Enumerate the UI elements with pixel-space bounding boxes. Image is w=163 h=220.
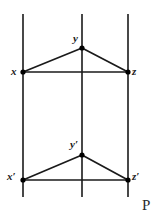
geometry-figure: x y z x′ y′ z′ P [0, 0, 163, 220]
segment-yp-zp [82, 155, 128, 180]
vertex-label-z: z [132, 66, 136, 77]
vertex-point-x-prime [20, 177, 25, 182]
vertex-label-x: x [11, 66, 17, 77]
vertex-point-z [125, 69, 130, 74]
vertex-point-y-prime [79, 152, 84, 157]
vertex-label-y: y [73, 33, 78, 44]
segment-x-y [23, 48, 82, 72]
vertex-label-y-prime: y′ [70, 139, 78, 150]
vertex-point-x [20, 69, 25, 74]
figure-canvas [0, 0, 163, 220]
plane-label-p: P [142, 198, 150, 213]
vertex-point-y [79, 45, 84, 50]
segment-xp-yp [23, 155, 82, 180]
vertex-label-z-prime: z′ [132, 171, 139, 182]
vertex-label-x-prime: x′ [7, 171, 16, 182]
segment-y-z [82, 48, 128, 72]
vertex-point-z-prime [125, 177, 130, 182]
